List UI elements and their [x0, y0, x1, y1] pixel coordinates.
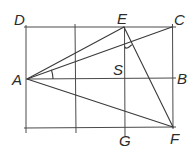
segment-ef: [124, 27, 173, 127]
label-d: D: [14, 11, 25, 28]
segment-af: [27, 79, 173, 127]
angle-mark-a: [52, 70, 54, 78]
label-e: E: [117, 10, 128, 27]
geometry-diagram: D E C A S B G F: [0, 0, 195, 160]
label-a: A: [11, 71, 22, 88]
right-vertical-cf: [173, 24, 174, 129]
angle-mark-eg-ac: [125, 45, 132, 48]
label-g: G: [119, 132, 131, 149]
label-s: S: [113, 61, 123, 78]
second-vertical: [75, 24, 76, 133]
label-f: F: [170, 130, 180, 147]
label-c: C: [174, 11, 185, 28]
label-b: B: [177, 70, 187, 87]
segment-ac: [27, 27, 172, 79]
bottom-line: [24, 127, 176, 128]
middle-line-ab: [27, 78, 176, 79]
